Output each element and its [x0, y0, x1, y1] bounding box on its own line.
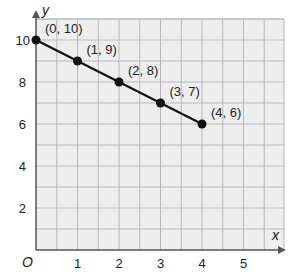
x-axis-label: x — [271, 227, 280, 243]
x-tick-label: 1 — [74, 256, 81, 271]
y-tick-label: 10 — [16, 33, 30, 48]
data-point-label: (3, 7) — [170, 84, 200, 99]
x-tick-label: 3 — [157, 256, 164, 271]
origin-label: O — [22, 254, 33, 270]
y-tick-label: 2 — [19, 201, 26, 216]
x-tick-label: 4 — [198, 256, 205, 271]
y-tick-label: 4 — [19, 159, 26, 174]
data-point — [73, 57, 82, 66]
line-chart: 12345246810 (0, 10)(1, 9)(2, 8)(3, 7)(4,… — [0, 0, 300, 279]
data-point-label: (2, 8) — [128, 63, 158, 78]
data-point — [156, 99, 165, 108]
data-point — [115, 78, 124, 87]
x-tick-label: 5 — [240, 256, 247, 271]
y-tick-label: 6 — [19, 117, 26, 132]
data-point-label: (4, 6) — [211, 105, 241, 120]
data-point — [32, 36, 41, 45]
y-axis-arrow-icon — [32, 10, 40, 18]
y-tick-label: 8 — [19, 75, 26, 90]
y-axis-label: y — [41, 2, 50, 18]
data-point — [198, 120, 207, 129]
x-tick-label: 2 — [115, 256, 122, 271]
data-point-label: (0, 10) — [45, 21, 83, 36]
data-point-label: (1, 9) — [87, 42, 117, 57]
